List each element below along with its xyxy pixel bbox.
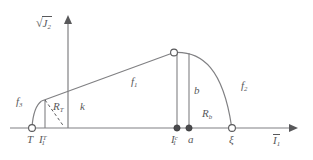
marker-a-filled-dot [186,125,192,131]
y-axis-group [64,15,72,128]
a-base: a [188,133,194,145]
f2-sub: 2 [244,85,247,92]
x-axis-group [10,124,298,132]
axis-point-label-T: T [27,134,33,145]
curve-label-f1: f1 [131,76,137,88]
k-base: k [80,100,85,112]
y-axis-arrowhead [64,15,72,24]
x-axis-label-sub: 1 [277,140,280,147]
f1-sub: 1 [134,81,137,88]
figure-canvas: √J2 I1 f3 f1 f2 RT k b Rb T IT1 Ic1 a ξ [0,0,313,160]
b-base: b [194,84,200,96]
marker-I1c-filled-dot [174,125,180,131]
marker-zeta-open-circle [229,125,236,132]
f3-sub: 3 [19,101,22,108]
Rb-base: R [202,107,209,119]
marker-T-open-circle [29,125,36,132]
curve-label-f3: f3 [16,96,22,108]
y-axis-label-sub: 2 [47,23,50,30]
axis-point-label-zeta: ξ [229,134,234,145]
x-axis-arrowhead [289,124,298,132]
f3-curve [32,101,42,127]
curve-label-f2: f2 [241,80,247,92]
segment-label-RT: RT [53,101,64,113]
marker-peak-open-circle [171,49,178,56]
sqrt-radicand: J2 [42,16,52,30]
I1T-sub: 1 [41,139,44,146]
I1c-sub: 1 [173,139,176,146]
axis-point-label-a: a [188,134,194,145]
RT-sub: T [60,106,64,113]
RT-base: R [53,100,60,112]
x-axis-label-overbar: I1 [273,134,280,147]
axis-point-label-I1c: Ic1 [171,134,176,146]
f1-line [42,53,175,102]
T-base: T [27,133,33,145]
axis-point-label-I1T: IT1 [39,134,45,146]
zeta-base: ξ [229,133,234,145]
segment-label-k: k [80,101,85,112]
x-axis-label: I1 [273,134,280,147]
segment-label-b: b [194,85,200,96]
y-axis-label: √J2 [36,16,52,30]
sqrt-icon: √J2 [36,16,52,30]
segment-label-Rb: Rb [202,108,212,120]
Rb-sub: b [209,113,212,120]
